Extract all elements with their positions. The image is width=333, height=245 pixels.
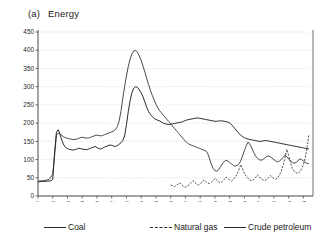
x-tick-label: 1978 xyxy=(78,200,85,202)
y-tick-label: 450 xyxy=(23,28,34,35)
x-tick-label: 1988 xyxy=(152,200,159,202)
legend-item-crude-petroleum[interactable]: Crude petroleum xyxy=(224,222,311,232)
legend-item-natural-gas[interactable]: Natural gas xyxy=(150,222,217,232)
x-tick-label: 2000 xyxy=(241,200,248,202)
y-tick-label: 300 xyxy=(23,83,34,90)
page-title: (a)Energy xyxy=(28,8,79,19)
x-tick-label: 2002 xyxy=(255,200,262,202)
panel-title: Energy xyxy=(48,8,79,19)
x-axis-ticks xyxy=(38,30,313,199)
chart-legend: Coal Natural gas Crude petroleum xyxy=(0,222,333,238)
chart-panel: (a)Energy 050100150200250300350400450 19… xyxy=(0,0,333,245)
y-tick-label: 200 xyxy=(23,119,34,126)
x-tick-label: 1972 xyxy=(34,200,41,202)
series-line-natural-gas xyxy=(171,135,309,187)
legend-swatch-natural-gas-icon xyxy=(150,223,172,231)
y-tick-label: 0 xyxy=(30,192,34,199)
y-tick-label: 350 xyxy=(23,65,34,72)
x-tick-label: 1992 xyxy=(182,200,189,202)
legend-swatch-crude-petroleum-icon xyxy=(224,223,246,231)
y-axis-labels: 050100150200250300350400450 xyxy=(23,28,34,199)
x-tick-label: 1986 xyxy=(137,200,144,202)
series-line-crude-petroleum xyxy=(38,50,309,181)
legend-label-natural-gas: Natural gas xyxy=(174,222,217,232)
panel-tag: (a) xyxy=(28,8,48,19)
x-tick-label: 1994 xyxy=(196,200,203,202)
y-tick-label: 50 xyxy=(27,174,35,181)
x-tick-label: 1976 xyxy=(64,200,71,202)
x-axis-labels: 1972197419761978198019821984198619881990… xyxy=(34,200,306,202)
x-tick-label: 2004 xyxy=(270,200,277,202)
y-tick-label: 250 xyxy=(23,101,34,108)
y-tick-label: 150 xyxy=(23,138,34,145)
y-tick-label: 400 xyxy=(23,46,34,53)
y-tick-label: 100 xyxy=(23,156,34,163)
x-tick-label: 2008 xyxy=(300,200,307,202)
plot-area: 050100150200250300350400450 197219741976… xyxy=(0,22,333,202)
x-tick-label: 1974 xyxy=(49,200,56,202)
x-tick-label: 2006 xyxy=(285,200,292,202)
x-tick-label: 1984 xyxy=(123,200,130,202)
x-tick-label: 1980 xyxy=(93,200,100,202)
series-line-coal xyxy=(38,87,309,182)
legend-label-crude-petroleum: Crude petroleum xyxy=(248,222,311,232)
legend-item-coal[interactable]: Coal xyxy=(44,222,85,232)
x-tick-label: 1982 xyxy=(108,200,115,202)
legend-label-coal: Coal xyxy=(68,222,85,232)
legend-swatch-coal-icon xyxy=(44,223,66,231)
x-tick-label: 1996 xyxy=(211,200,218,202)
data-series-group xyxy=(38,50,309,187)
x-tick-label: 1998 xyxy=(226,200,233,202)
x-tick-label: 1990 xyxy=(167,200,174,202)
line-chart: 050100150200250300350400450 197219741976… xyxy=(0,22,333,202)
